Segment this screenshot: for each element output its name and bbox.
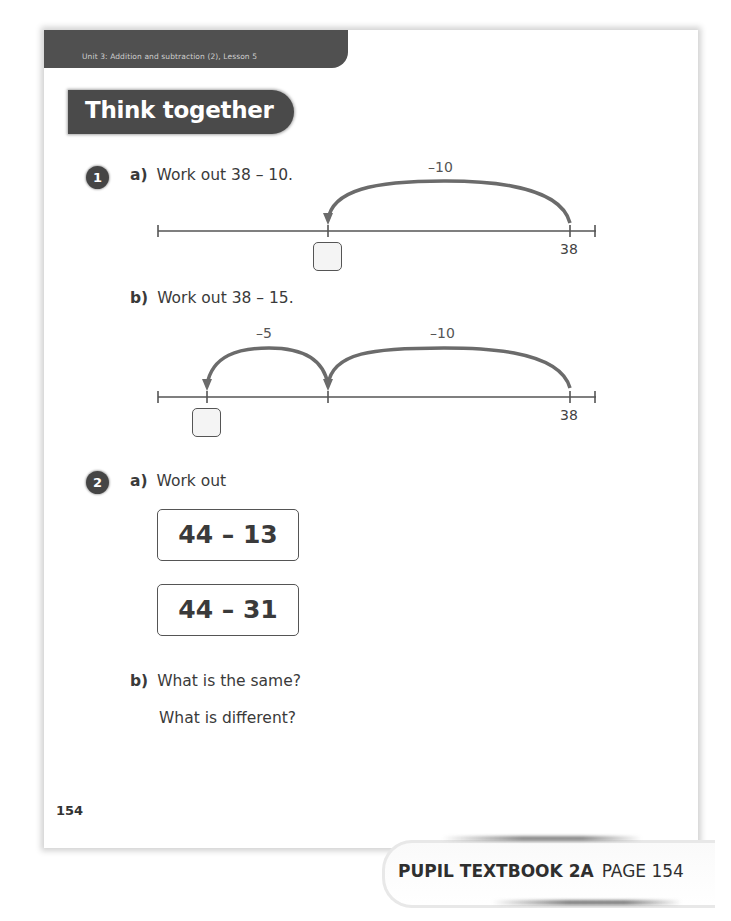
jump-label-minus-5: –5 [256,325,272,341]
question-2b-prompt: b)What is the same? [130,672,301,690]
part-letter: b) [130,672,148,690]
expression-box: 44 – 31 [157,584,299,636]
answer-box[interactable] [192,408,221,437]
question-2b-prompt2: What is different? [159,709,296,727]
footer-label: PUPIL TEXTBOOK 2APAGE 154 [398,861,684,881]
question-number-badge: 2 [86,471,109,494]
prompt-text: What is the same? [157,672,301,690]
page-number: 154 [56,803,83,818]
footer-page: PAGE 154 [602,861,684,881]
start-label-38: 38 [560,407,578,423]
number-line-1b [44,30,698,848]
footer-tab: PUPIL TEXTBOOK 2APAGE 154 [382,840,731,904]
question-2a-prompt: a)Work out [130,472,226,490]
jump-label-minus-10: –10 [430,325,455,341]
prompt-text: Work out [157,472,227,490]
footer-shadow-bottom [492,900,682,905]
part-letter: a) [130,472,148,490]
expression-box: 44 – 13 [157,509,299,561]
footer-book: PUPIL TEXTBOOK 2A [398,861,594,881]
textbook-page: Unit 3: Addition and subtraction (2), Le… [44,30,698,848]
footer-shadow-top [442,836,642,841]
